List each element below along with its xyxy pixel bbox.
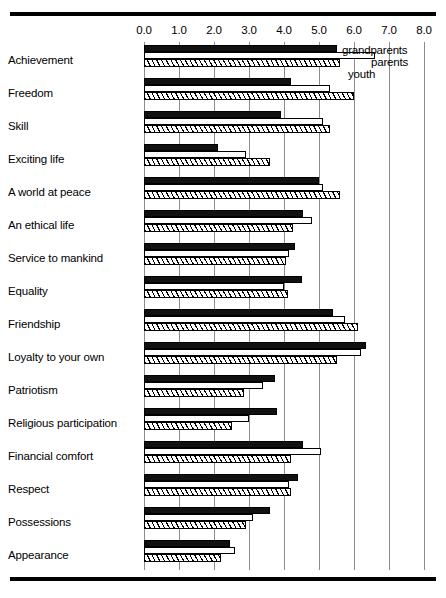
bar-youth [144, 191, 340, 199]
bar-grandparents [144, 177, 319, 184]
category-label: Possessions [8, 516, 71, 528]
category-label: Respect [8, 483, 49, 495]
bar-youth [144, 59, 340, 67]
bar-youth [144, 521, 246, 529]
bar-parents [144, 448, 321, 455]
category-label: Religious participation [8, 417, 117, 429]
bar-youth [144, 125, 330, 133]
bar-group [144, 537, 424, 570]
bar-group [144, 174, 424, 207]
category-label: Loyalty to your own [8, 351, 104, 363]
bar-group [144, 471, 424, 504]
x-tick-label: 8.0 [416, 24, 432, 36]
bar-parents [144, 250, 289, 257]
category-label: Service to mankind [8, 252, 103, 264]
x-axis-tick-labels: 0.01.02.03.04.05.06.07.08.0 [0, 24, 446, 40]
top-rule [10, 12, 436, 16]
bar-group [144, 504, 424, 537]
bar-youth [144, 224, 293, 232]
category-label: Exciting life [8, 153, 64, 165]
bar-grandparents [144, 144, 218, 151]
bar-group [144, 141, 424, 174]
bar-grandparents [144, 474, 298, 481]
category-label: An ethical life [8, 219, 74, 231]
x-tick-label: 5.0 [311, 24, 327, 36]
bar-parents [144, 547, 235, 554]
bar-youth [144, 455, 291, 463]
category-label: A world at peace [8, 186, 91, 198]
bar-grandparents [144, 342, 366, 349]
bar-youth [144, 488, 291, 496]
bar-group [144, 306, 424, 339]
x-tick-label: 2.0 [206, 24, 222, 36]
category-label: Equality [8, 285, 48, 297]
bar-youth [144, 290, 288, 298]
x-tick-label: 6.0 [346, 24, 362, 36]
category-label: Patriotism [8, 384, 58, 396]
category-label: Freedom [8, 87, 53, 99]
x-tick-label: 3.0 [241, 24, 257, 36]
bar-parents [144, 349, 361, 356]
bar-grandparents [144, 408, 277, 415]
category-label: Friendship [8, 318, 60, 330]
bar-grandparents [144, 375, 275, 382]
bar-parents [144, 184, 323, 191]
bar-grandparents [144, 540, 230, 547]
legend-label-parents: parents [371, 56, 408, 68]
bar-parents [144, 118, 323, 125]
gridline [424, 42, 425, 570]
category-label: Achievement [8, 54, 73, 66]
category-label: Appearance [8, 549, 69, 561]
x-tick-label: 1.0 [171, 24, 187, 36]
category-label: Financial comfort [8, 450, 93, 462]
bottom-rule [10, 577, 436, 581]
bar-parents [144, 151, 246, 158]
bar-chart: 0.01.02.03.04.05.06.07.08.0 AchievementF… [0, 0, 446, 598]
bar-grandparents [144, 210, 303, 217]
x-tick-label: 4.0 [276, 24, 292, 36]
bar-grandparents [144, 441, 303, 448]
bar-group [144, 438, 424, 471]
x-tick-label: 7.0 [381, 24, 397, 36]
bar-group [144, 75, 424, 108]
bar-youth [144, 323, 358, 331]
bar-grandparents [144, 243, 295, 250]
bar-parents [144, 52, 375, 59]
category-axis-labels: AchievementFreedomSkillExciting lifeA wo… [0, 42, 144, 570]
bar-youth [144, 92, 354, 100]
category-label: Skill [8, 120, 28, 132]
bar-grandparents [144, 45, 337, 52]
bar-parents [144, 415, 249, 422]
bar-parents [144, 316, 345, 323]
bar-grandparents [144, 309, 333, 316]
bar-youth [144, 422, 232, 430]
bar-group [144, 273, 424, 306]
plot-area [144, 42, 424, 570]
bar-group [144, 207, 424, 240]
legend-label-grandparents: grandparents [342, 44, 407, 56]
bar-grandparents [144, 276, 302, 283]
bar-parents [144, 217, 312, 224]
bar-parents [144, 85, 330, 92]
bar-youth [144, 257, 286, 265]
bar-parents [144, 283, 284, 290]
x-tick-label: 0.0 [136, 24, 152, 36]
bar-youth [144, 389, 244, 397]
bar-youth [144, 356, 337, 364]
bar-group [144, 240, 424, 273]
bar-youth [144, 158, 270, 166]
bar-grandparents [144, 507, 270, 514]
bar-group [144, 339, 424, 372]
bar-group [144, 405, 424, 438]
bar-grandparents [144, 111, 281, 118]
legend-label-youth: youth [348, 68, 375, 80]
bar-grandparents [144, 78, 291, 85]
bar-group [144, 108, 424, 141]
bar-youth [144, 554, 221, 562]
bar-parents [144, 481, 289, 488]
bar-parents [144, 514, 253, 521]
bar-parents [144, 382, 263, 389]
bar-group [144, 372, 424, 405]
